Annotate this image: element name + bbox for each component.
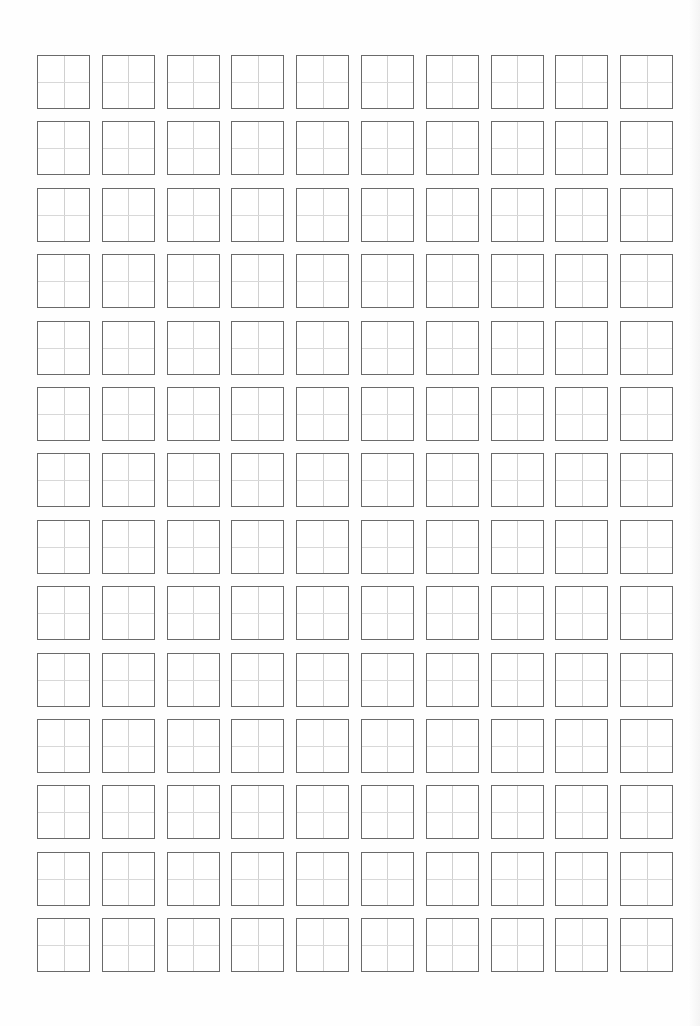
practice-cell — [491, 55, 544, 109]
practice-cell — [426, 188, 479, 242]
practice-cell — [167, 453, 220, 507]
practice-cell — [102, 121, 155, 175]
practice-cell — [37, 852, 90, 906]
practice-cell — [555, 121, 608, 175]
practice-cell — [491, 852, 544, 906]
practice-cell — [296, 918, 349, 972]
practice-cell — [167, 55, 220, 109]
practice-cell — [37, 387, 90, 441]
practice-cell — [491, 653, 544, 707]
tianzige-grid — [37, 55, 673, 972]
practice-cell — [620, 785, 673, 839]
practice-cell — [426, 254, 479, 308]
practice-cell — [555, 719, 608, 773]
practice-cell — [296, 586, 349, 640]
practice-cell — [102, 520, 155, 574]
practice-cell — [167, 188, 220, 242]
practice-cell — [426, 453, 479, 507]
practice-cell — [620, 852, 673, 906]
practice-cell — [37, 453, 90, 507]
practice-cell — [426, 719, 479, 773]
practice-cell — [167, 586, 220, 640]
practice-cell — [102, 254, 155, 308]
practice-cell — [37, 321, 90, 375]
practice-cell — [361, 586, 414, 640]
practice-cell — [231, 586, 284, 640]
practice-cell — [361, 520, 414, 574]
practice-cell — [167, 719, 220, 773]
practice-cell — [231, 387, 284, 441]
practice-cell — [361, 852, 414, 906]
practice-cell — [296, 852, 349, 906]
practice-cell — [37, 586, 90, 640]
practice-cell — [102, 387, 155, 441]
practice-cell — [37, 719, 90, 773]
practice-cell — [231, 121, 284, 175]
practice-cell — [296, 55, 349, 109]
practice-cell — [491, 918, 544, 972]
practice-cell — [37, 188, 90, 242]
practice-cell — [426, 121, 479, 175]
practice-cell — [102, 719, 155, 773]
practice-cell — [620, 918, 673, 972]
practice-cell — [37, 520, 90, 574]
practice-cell — [620, 254, 673, 308]
practice-cell — [555, 387, 608, 441]
practice-cell — [620, 586, 673, 640]
practice-cell — [555, 254, 608, 308]
practice-cell — [37, 918, 90, 972]
practice-cell — [296, 453, 349, 507]
practice-cell — [37, 55, 90, 109]
practice-cell — [231, 254, 284, 308]
practice-cell — [426, 918, 479, 972]
practice-cell — [620, 188, 673, 242]
practice-cell — [491, 586, 544, 640]
practice-cell — [361, 55, 414, 109]
practice-cell — [167, 852, 220, 906]
practice-cell — [491, 785, 544, 839]
practice-cell — [231, 453, 284, 507]
practice-cell — [296, 653, 349, 707]
practice-cell — [491, 453, 544, 507]
page-edge-shadow — [688, 0, 700, 1026]
practice-cell — [102, 586, 155, 640]
practice-cell — [296, 254, 349, 308]
practice-cell — [555, 653, 608, 707]
practice-cell — [620, 55, 673, 109]
practice-cell — [231, 918, 284, 972]
practice-cell — [620, 719, 673, 773]
practice-cell — [491, 321, 544, 375]
practice-cell — [361, 785, 414, 839]
practice-cell — [231, 719, 284, 773]
practice-cell — [555, 918, 608, 972]
practice-cell — [102, 453, 155, 507]
practice-cell — [296, 785, 349, 839]
practice-cell — [426, 55, 479, 109]
practice-cell — [37, 121, 90, 175]
practice-cell — [37, 653, 90, 707]
practice-cell — [361, 918, 414, 972]
practice-cell — [555, 55, 608, 109]
practice-cell — [296, 520, 349, 574]
practice-cell — [167, 653, 220, 707]
practice-cell — [231, 852, 284, 906]
practice-cell — [555, 520, 608, 574]
practice-cell — [296, 321, 349, 375]
practice-cell — [620, 520, 673, 574]
practice-cell — [426, 586, 479, 640]
practice-cell — [231, 321, 284, 375]
practice-cell — [491, 121, 544, 175]
practice-cell — [167, 121, 220, 175]
practice-cell — [491, 387, 544, 441]
practice-cell — [361, 121, 414, 175]
practice-cell — [426, 321, 479, 375]
practice-cell — [620, 121, 673, 175]
practice-cell — [167, 520, 220, 574]
practice-cell — [491, 188, 544, 242]
practice-cell — [102, 321, 155, 375]
practice-cell — [491, 520, 544, 574]
practice-cell — [555, 188, 608, 242]
practice-cell — [426, 520, 479, 574]
practice-cell — [555, 453, 608, 507]
practice-cell — [102, 653, 155, 707]
